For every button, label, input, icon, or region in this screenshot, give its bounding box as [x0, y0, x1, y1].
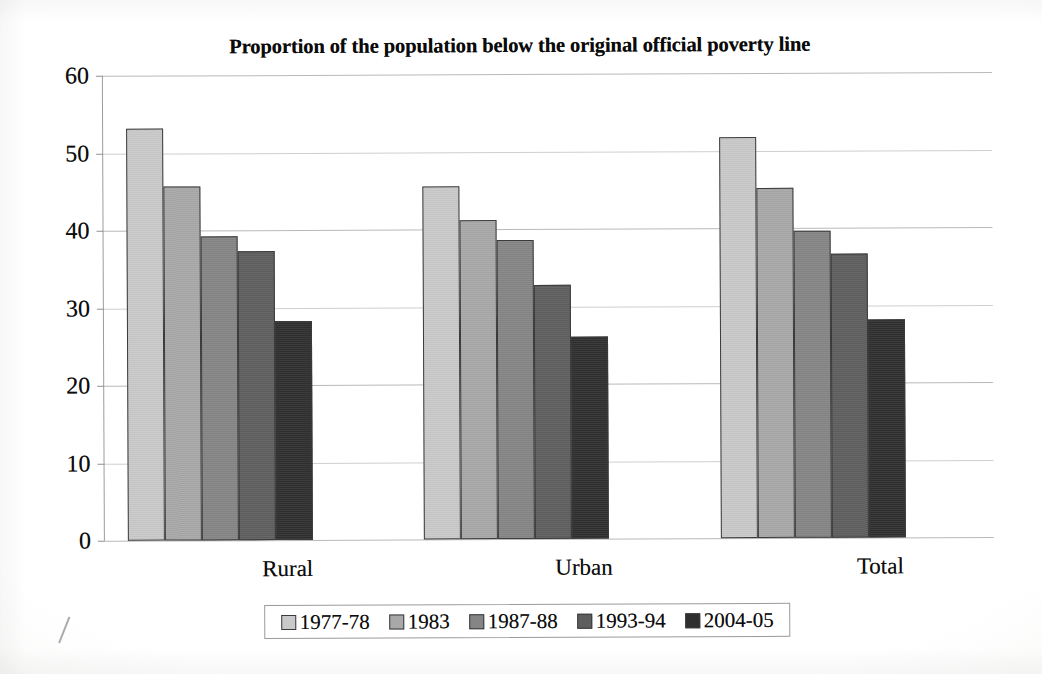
bar[interactable]: [275, 321, 313, 540]
legend-swatch-icon: [577, 613, 592, 628]
y-axis-tick-label: 40: [65, 217, 89, 244]
y-axis-tick-label: 50: [65, 140, 89, 167]
legend-swatch-icon: [469, 614, 484, 629]
y-axis-tick: [98, 463, 105, 464]
y-axis-tick-label: 30: [66, 295, 90, 322]
legend-label: 1983: [408, 609, 450, 634]
legend-swatch-icon: [389, 614, 404, 629]
bar-group: Urban: [399, 73, 720, 539]
y-axis-tick: [97, 308, 104, 309]
y-axis-tick: [97, 386, 104, 387]
bar[interactable]: [126, 129, 165, 541]
legend-label: 1977-78: [300, 609, 370, 634]
legend-swatch-icon: [685, 613, 700, 628]
legend-item[interactable]: 1983: [389, 609, 450, 634]
x-axis-category-label: Total: [721, 553, 1040, 580]
bar[interactable]: [868, 320, 906, 538]
x-axis-category-label: Urban: [424, 554, 743, 581]
y-axis-tick-label: 10: [66, 450, 90, 477]
legend-item[interactable]: 2004-05: [685, 607, 774, 632]
plot-area: 0102030405060 RuralUrbanTotal: [103, 72, 994, 541]
legend-label: 1993-94: [596, 608, 666, 633]
y-axis-tick: [97, 231, 104, 232]
bar[interactable]: [460, 221, 498, 540]
bar[interactable]: [830, 254, 868, 538]
bar[interactable]: [719, 137, 758, 539]
bar-groups: RuralUrbanTotal: [103, 72, 992, 76]
chart-legend: 1977-7819831987-881993-942004-05: [264, 603, 790, 639]
x-axis-category-label: Rural: [128, 555, 447, 582]
legend-label: 1987-88: [488, 608, 558, 633]
legend-item[interactable]: 1993-94: [577, 608, 666, 633]
bar[interactable]: [571, 336, 609, 538]
bar-group: Rural: [103, 74, 424, 540]
y-axis-tick: [96, 76, 103, 77]
legend-item[interactable]: 1977-78: [281, 609, 370, 634]
bar[interactable]: [497, 240, 535, 539]
y-axis-tick-label: 20: [66, 372, 90, 399]
bar[interactable]: [163, 186, 202, 540]
legend-swatch-icon: [281, 614, 296, 629]
y-axis-tick: [96, 153, 103, 154]
chart-title: Proportion of the population below the o…: [0, 32, 1041, 60]
pen-stroke-artifact: [58, 617, 70, 644]
bar[interactable]: [793, 231, 831, 538]
bar-chart: Proportion of the population below the o…: [0, 0, 1042, 674]
bar[interactable]: [756, 188, 795, 538]
bar[interactable]: [238, 251, 276, 540]
y-axis-tick: [98, 541, 105, 542]
bar-group: Total: [696, 72, 1017, 538]
legend-label: 2004-05: [704, 607, 774, 632]
y-axis-tick-label: 0: [79, 527, 91, 554]
bar[interactable]: [201, 236, 239, 540]
y-axis-tick-label: 60: [65, 62, 89, 89]
bar[interactable]: [534, 285, 572, 539]
legend-item[interactable]: 1987-88: [469, 608, 558, 633]
bar[interactable]: [423, 186, 462, 540]
